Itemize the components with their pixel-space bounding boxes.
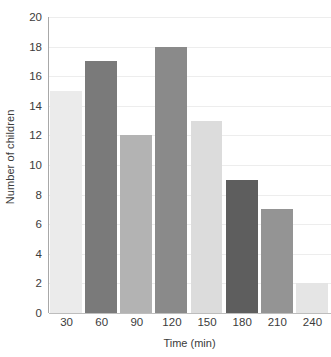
bar-120[interactable] bbox=[155, 47, 187, 313]
y-axis-tick-label: 0 bbox=[36, 307, 42, 319]
x-axis-tick-label: 120 bbox=[154, 316, 189, 328]
x-axis-tick-label: 30 bbox=[49, 316, 84, 328]
y-axis-tick-label: 20 bbox=[29, 11, 42, 23]
x-axis-tick-label: 240 bbox=[295, 316, 330, 328]
gridline bbox=[49, 313, 331, 314]
x-axis-tick-label: 150 bbox=[190, 316, 225, 328]
y-axis-tick-label: 6 bbox=[36, 218, 42, 230]
x-axis-tick-label: 210 bbox=[260, 316, 295, 328]
x-axis-title: Time (min) bbox=[49, 337, 330, 349]
bars-layer bbox=[50, 17, 331, 313]
bar-150[interactable] bbox=[191, 121, 223, 313]
bar-60[interactable] bbox=[85, 61, 117, 313]
y-axis-tick-label: 2 bbox=[36, 277, 42, 289]
x-axis-title-label: Time (min) bbox=[163, 337, 215, 349]
x-axis-tick-label: 180 bbox=[225, 316, 260, 328]
y-axis-tick-label: 14 bbox=[29, 100, 42, 112]
plot-area bbox=[48, 17, 331, 313]
y-axis-tick-label: 16 bbox=[29, 70, 42, 82]
y-axis-tick-label: 8 bbox=[36, 189, 42, 201]
y-axis-tick-label: 10 bbox=[29, 159, 42, 171]
y-axis-title-label: Number of children bbox=[4, 109, 16, 204]
y-axis-tick-label: 18 bbox=[29, 41, 42, 53]
bar-180[interactable] bbox=[226, 180, 258, 313]
bar-240[interactable] bbox=[296, 283, 328, 313]
x-axis-tick-label: 60 bbox=[84, 316, 119, 328]
bar-30[interactable] bbox=[50, 91, 82, 313]
y-axis-tick-label: 4 bbox=[36, 248, 42, 260]
x-axis-tick-labels: 306090120150180210240 bbox=[49, 316, 330, 336]
bar-210[interactable] bbox=[261, 209, 293, 313]
y-axis-tick-label: 12 bbox=[29, 129, 42, 141]
y-axis-tick-labels: 02468101214161820 bbox=[20, 0, 45, 320]
y-axis-title: Number of children bbox=[0, 0, 20, 313]
x-axis-tick-label: 90 bbox=[119, 316, 154, 328]
bar-90[interactable] bbox=[120, 135, 152, 313]
